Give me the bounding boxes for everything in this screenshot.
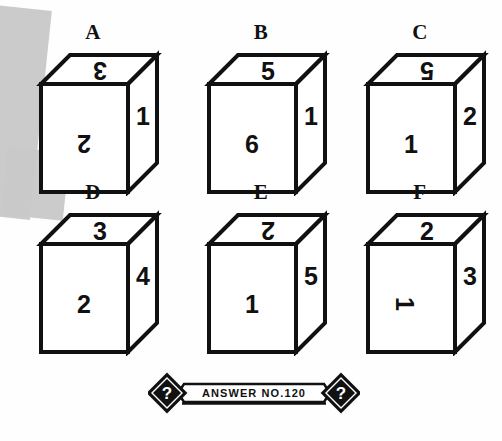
cube-label-d: D <box>10 180 176 205</box>
cube-label-a: A <box>10 20 176 45</box>
cube-drawing-a: 2 3 1 <box>18 44 168 200</box>
cube-e-top-digit: 2 <box>261 217 275 245</box>
cube-label-e: E <box>178 180 344 205</box>
cube-d-right-digit: 4 <box>136 262 150 290</box>
answer-banner[interactable]: ? ? ANSWER NO.120 <box>148 372 360 420</box>
cube-c-right-digit: 2 <box>463 102 477 130</box>
cube-b-top-digit: 5 <box>261 57 275 85</box>
cube-f-front-digit: 1 <box>391 297 419 311</box>
cube-item-a[interactable]: A 2 3 1 <box>10 20 176 205</box>
left-question-diamond: ? <box>148 374 186 412</box>
left-question-mark: ? <box>162 384 172 403</box>
cube-item-f[interactable]: F 1 2 3 <box>337 180 502 365</box>
cube-label-c: C <box>337 20 502 45</box>
right-question-diamond: ? <box>322 374 360 412</box>
cube-label-f: F <box>337 180 502 205</box>
cube-e-right-digit: 5 <box>304 262 318 290</box>
cube-item-b[interactable]: B 6 5 1 <box>178 20 344 205</box>
puzzle-page: A 2 3 1 B <box>0 0 502 441</box>
cube-drawing-c: 1 5 2 <box>345 44 495 200</box>
cube-f-top-digit: 2 <box>420 217 434 245</box>
cube-a-right-digit: 1 <box>136 102 150 130</box>
cube-drawing-b: 6 5 1 <box>186 44 336 200</box>
cube-drawing-f: 1 2 3 <box>345 204 495 360</box>
cube-drawing-d: 2 3 4 <box>18 204 168 360</box>
cube-f-right-digit: 3 <box>463 262 477 290</box>
cube-label-b: B <box>178 20 344 45</box>
cube-d-front-digit: 2 <box>77 290 91 318</box>
cube-item-e[interactable]: E 1 2 5 <box>178 180 344 365</box>
cube-drawing-e: 1 2 5 <box>186 204 336 360</box>
cube-e-front-digit: 1 <box>245 290 259 318</box>
answer-banner-text: ANSWER NO.120 <box>202 387 306 399</box>
cube-item-c[interactable]: C 1 5 2 <box>337 20 502 205</box>
cube-item-d[interactable]: D 2 3 4 <box>10 180 176 365</box>
cube-b-front-digit: 6 <box>245 130 259 158</box>
cube-grid: A 2 3 1 B <box>0 0 502 370</box>
cube-d-top-digit: 3 <box>93 217 107 245</box>
cube-c-top-digit: 5 <box>420 57 434 85</box>
cube-a-front-digit: 2 <box>77 130 91 158</box>
cube-b-right-digit: 1 <box>304 102 318 130</box>
right-question-mark: ? <box>336 384 346 403</box>
cube-a-top-digit: 3 <box>93 57 107 85</box>
cube-c-front-digit: 1 <box>404 130 418 158</box>
